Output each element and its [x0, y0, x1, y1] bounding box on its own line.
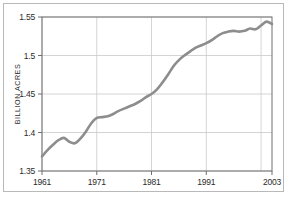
y-tick-label-1.4: 1.4: [24, 128, 36, 138]
chart-figure: 19611971198119912003 1.351.41.451.51.55 …: [3, 3, 284, 192]
y-axis-title: BILLION ACRES: [13, 64, 22, 124]
y-tick-label-1.5: 1.5: [24, 51, 36, 61]
line-chart: 19611971198119912003 1.351.41.451.51.55 …: [4, 4, 283, 191]
x-tick-label-1981: 1981: [142, 177, 161, 187]
y-tick-label-1.35: 1.35: [19, 166, 35, 176]
gridlines: [42, 17, 272, 171]
x-tick-label-1961: 1961: [33, 177, 52, 187]
x-tick-label-1971: 1971: [88, 177, 107, 187]
x-axis-ticks: [42, 171, 272, 175]
x-tick-label-2003: 2003: [263, 177, 282, 187]
x-tick-label-1991: 1991: [197, 177, 216, 187]
data-series-line: [42, 22, 272, 157]
x-axis-tick-labels: 19611971198119912003: [33, 177, 282, 187]
y-axis-ticks: [38, 17, 42, 171]
y-tick-label-1.55: 1.55: [19, 12, 35, 22]
series-world-cropland-path: [42, 22, 272, 157]
